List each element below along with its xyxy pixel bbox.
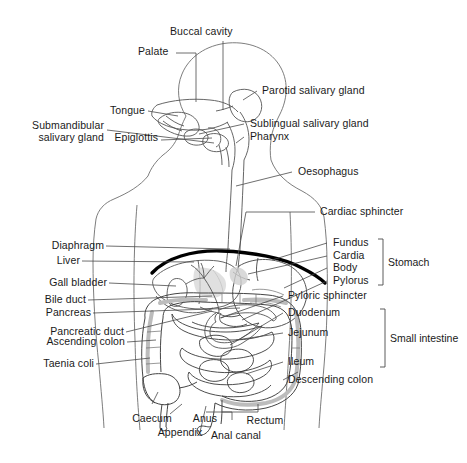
label-anal-canal: Anal canal [202,430,270,442]
label-tongue: Tongue [20,105,145,117]
label-parotid-salivary-gland: Parotid salivary gland [262,85,365,97]
label-oesophagus: Oesophagus [298,166,359,178]
label-cardia: Cardia [333,250,365,262]
label-sublingual-salivary-gland: Sublingual salivary gland [250,118,369,130]
label-submandibular-salivary-gland-line1: Submandibular [8,120,104,132]
label-rectum: Rectum [236,415,294,427]
label-pyloric-sphincter: Pyloric sphincter [288,290,367,302]
label-palate: Palate [138,46,168,58]
label-pharynx: Pharynx [250,131,289,143]
label-duodenum: Duodenum [288,307,340,319]
label-pancreas: Pancreas [0,307,91,319]
label-ascending-colon: Ascending colon [0,336,125,348]
label-caecum: Caecum [122,413,182,425]
digestive-system-diagram: Buccal cavity Palate Tongue Submandibula… [0,0,467,463]
label-anus: Anus [182,413,228,425]
label-cardiac-sphincter: Cardiac sphincter [320,206,403,218]
oesophagus-tube [226,160,244,272]
body-outline [93,43,327,430]
label-buccal-cavity: Buccal cavity [170,26,233,38]
label-small-intestine-group: Small intestine [390,332,458,344]
head-internal-anatomy [152,89,262,170]
label-liver: Liver [0,255,80,267]
label-epiglottis: Epiglottis [60,132,158,144]
pancreas-organ [219,305,276,321]
label-pylorus: Pylorus [333,275,369,287]
label-fundus: Fundus [333,237,369,249]
label-diaphragm: Diaphragm [0,240,104,252]
label-taenia-coli: Taenia coli [0,358,94,370]
label-ileum: Ileum [288,356,314,368]
label-jejunum: Jejunum [288,327,328,339]
label-stomach-group: Stomach [388,256,429,268]
label-descending-colon: Descending colon [288,374,373,386]
label-gall-bladder: Gall bladder [0,277,107,289]
label-bile-duct: Bile duct [0,294,86,306]
cardia-shading [230,267,248,285]
label-body: Body [333,262,357,274]
anatomy-illustration [0,0,467,463]
group-brackets [378,239,385,367]
